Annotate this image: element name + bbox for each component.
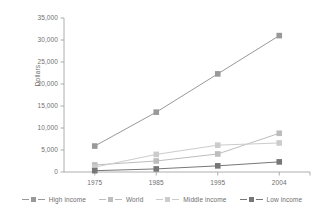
legend-line-icon <box>156 199 163 200</box>
data-point-marker <box>153 109 159 115</box>
data-point-marker <box>276 140 282 146</box>
legend-line-icon <box>115 199 122 200</box>
series-middle-income <box>92 140 282 170</box>
legend-label: World <box>126 196 143 203</box>
legend-label: Low income <box>267 196 303 203</box>
legend-line-icon <box>99 199 106 200</box>
line-chart: Dollars 05,00010,00015,00020,00025,00030… <box>0 0 324 217</box>
legend-line-icon <box>38 199 45 200</box>
legend-line-icon <box>256 199 263 200</box>
legend-item-world[interactable]: World <box>99 196 143 203</box>
series-low-income <box>92 159 282 173</box>
legend-marker-icon <box>165 197 170 202</box>
legend-marker-icon <box>108 197 113 202</box>
series-high-income <box>92 33 282 149</box>
data-point-marker <box>276 130 282 136</box>
data-point-marker <box>215 71 221 77</box>
legend-line-icon <box>22 199 29 200</box>
legend-label: Middle income <box>183 196 226 203</box>
series-line <box>95 133 280 165</box>
legend-item-low-income[interactable]: Low income <box>240 196 303 203</box>
legend-label: High income <box>49 196 86 203</box>
legend-line-icon <box>172 199 179 200</box>
chart-legend: High incomeWorldMiddle incomeLow income <box>0 196 324 203</box>
data-point-marker <box>215 151 221 157</box>
data-point-marker <box>276 159 282 165</box>
data-point-marker <box>92 143 98 149</box>
data-point-marker <box>153 166 159 172</box>
data-point-marker <box>276 33 282 39</box>
legend-item-middle-income[interactable]: Middle income <box>156 196 226 203</box>
series-line <box>95 36 280 146</box>
plot-area <box>0 0 324 217</box>
legend-item-high-income[interactable]: High income <box>22 196 86 203</box>
legend-marker-icon <box>31 197 36 202</box>
data-point-marker <box>92 168 98 174</box>
series-layer <box>92 33 282 174</box>
data-point-marker <box>153 152 159 158</box>
axes <box>61 18 311 176</box>
legend-marker-icon <box>249 197 254 202</box>
legend-line-icon <box>240 199 247 200</box>
data-point-marker <box>215 142 221 148</box>
data-point-marker <box>215 163 221 169</box>
data-point-marker <box>153 158 159 164</box>
